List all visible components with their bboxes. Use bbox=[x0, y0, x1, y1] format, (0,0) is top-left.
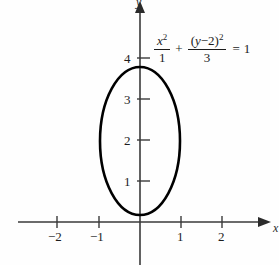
fraction-x-squared-over-1: x2 1 bbox=[154, 33, 170, 65]
denominator-1: 1 bbox=[156, 50, 169, 65]
fraction-y-minus-2-squared-over-3: (y−2)2 3 bbox=[188, 33, 227, 65]
x-tick-label-2: 2 bbox=[218, 230, 225, 243]
y-tick-label-4: 4 bbox=[124, 52, 131, 65]
equation-annotation: x2 1 + (y−2)2 3 = 1 bbox=[152, 33, 250, 65]
plus-operator: + bbox=[175, 41, 182, 57]
numerator-y-minus-2-squared: (y−2)2 bbox=[188, 33, 227, 49]
exponent-2-second: 2 bbox=[219, 32, 224, 42]
x-tick-label-neg2: −2 bbox=[48, 230, 62, 243]
numerator-x-squared: x2 bbox=[154, 33, 170, 49]
exponent-2: 2 bbox=[163, 32, 168, 42]
x-axis-label: x bbox=[273, 222, 278, 234]
x-tick-label-1: 1 bbox=[177, 230, 184, 243]
denominator-3: 3 bbox=[201, 50, 214, 65]
y-tick-label-3: 3 bbox=[124, 93, 131, 106]
y-axis-label: y bbox=[136, 0, 141, 8]
right-hand-side: 1 bbox=[244, 41, 251, 57]
x-axis-arrowhead bbox=[258, 217, 271, 227]
minus-sign: − bbox=[201, 33, 208, 48]
ellipse-graph-figure: −2 −1 1 2 1 2 3 4 x y x2 1 + (y−2)2 3 = … bbox=[0, 0, 279, 265]
y-tick-label-1: 1 bbox=[124, 175, 131, 188]
equals-sign: = bbox=[232, 41, 239, 57]
y-tick-label-2: 2 bbox=[124, 134, 131, 147]
x-tick-label-neg1: −1 bbox=[90, 230, 104, 243]
